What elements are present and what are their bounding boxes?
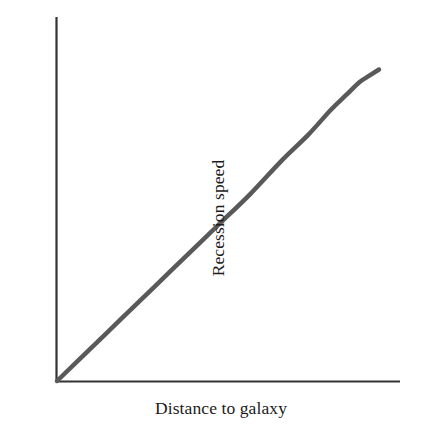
hubble-law-figure: Distance to galaxy Recession speed: [0, 0, 424, 436]
y-axis-label-wrapper: Recession speed: [22, 0, 202, 436]
y-axis-label: Recession speed: [210, 160, 228, 277]
